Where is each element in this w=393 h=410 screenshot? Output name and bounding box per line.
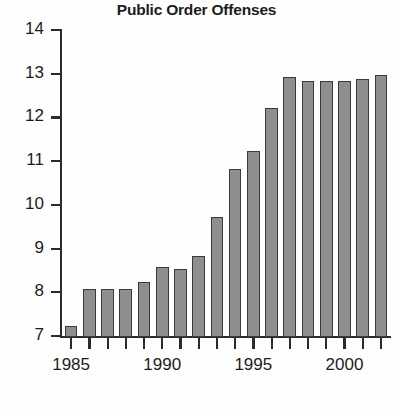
- x-axis-tick: [307, 338, 309, 349]
- bar: [192, 256, 205, 337]
- y-axis-tick-label: 8: [0, 281, 44, 301]
- x-axis-tick: [234, 338, 236, 349]
- bar: [174, 269, 187, 337]
- x-axis-tick: [179, 338, 181, 349]
- bar: [320, 81, 333, 337]
- y-axis-tick: [51, 160, 61, 162]
- x-axis-tick: [88, 338, 90, 349]
- y-axis-tick-label: 11: [0, 150, 44, 170]
- bar: [302, 81, 315, 337]
- bar: [356, 79, 369, 337]
- bar: [375, 75, 388, 337]
- bar: [156, 267, 169, 337]
- bar: [119, 289, 132, 337]
- x-axis-tick: [143, 338, 145, 349]
- chart-title: Public Order Offenses: [0, 1, 393, 19]
- x-axis-tick: [325, 338, 327, 349]
- bar: [65, 326, 78, 337]
- x-axis-tick: [70, 338, 72, 349]
- y-axis-tick: [51, 29, 61, 31]
- x-axis-tick: [362, 338, 364, 349]
- y-axis-tick: [51, 291, 61, 293]
- bar: [101, 289, 114, 337]
- x-axis-tick: [380, 338, 382, 349]
- bar: [138, 282, 151, 337]
- y-axis-tick: [51, 335, 61, 337]
- y-axis-tick-label: 7: [0, 325, 44, 345]
- bar: [283, 77, 296, 337]
- bar: [211, 217, 224, 337]
- y-axis-tick-label: 13: [0, 63, 44, 83]
- x-axis-tick: [289, 338, 291, 349]
- bar: [229, 169, 242, 337]
- y-axis-tick-label: 12: [0, 106, 44, 126]
- x-axis-tick-label: 1995: [218, 355, 288, 375]
- x-axis-tick: [107, 338, 109, 349]
- x-axis-tick: [216, 338, 218, 349]
- x-axis-tick: [343, 338, 345, 349]
- x-axis-tick-label: 1990: [127, 355, 197, 375]
- y-axis-tick: [51, 204, 61, 206]
- bar: [265, 108, 278, 338]
- x-axis-tick: [252, 338, 254, 349]
- y-axis-tick: [51, 248, 61, 250]
- y-axis-tick: [51, 73, 61, 75]
- bar-chart: Public Order Offenses 7891011121314 1985…: [0, 0, 393, 410]
- plot-area: [62, 30, 390, 337]
- bar: [83, 289, 96, 337]
- bar: [247, 151, 260, 337]
- x-axis-tick-label: 2000: [309, 355, 379, 375]
- y-axis-tick-label: 9: [0, 238, 44, 258]
- x-axis-tick: [271, 338, 273, 349]
- y-axis-tick-label: 14: [0, 19, 44, 39]
- y-axis-tick-label: 10: [0, 194, 44, 214]
- x-axis-tick-label: 1985: [36, 355, 106, 375]
- y-axis-tick: [51, 116, 61, 118]
- bar: [338, 81, 351, 337]
- x-axis-tick: [161, 338, 163, 349]
- x-axis-tick: [198, 338, 200, 349]
- x-axis-tick: [125, 338, 127, 349]
